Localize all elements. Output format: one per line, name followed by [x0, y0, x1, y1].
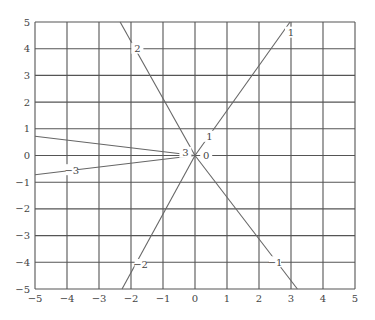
isocline-label: 0 [203, 150, 209, 161]
y-tick-label: −2 [15, 203, 30, 214]
x-tick-label: −4 [60, 293, 75, 304]
isocline-label: 2 [134, 43, 140, 54]
y-tick-label: 0 [24, 150, 30, 161]
isocline-label: 1 [206, 131, 212, 142]
x-tick-label: 1 [224, 293, 230, 304]
isocline-label: −3 [64, 165, 79, 176]
isocline-label: 3 [182, 147, 188, 158]
y-tick-label: 2 [24, 97, 30, 108]
isocline--3 [35, 156, 195, 175]
x-tick-label: −5 [28, 293, 43, 304]
y-tick-label: −5 [15, 284, 30, 295]
x-tick-label: 4 [320, 293, 326, 304]
x-tick-label: 5 [352, 293, 358, 304]
y-tick-label: 5 [24, 17, 30, 28]
x-tick-label: 2 [256, 293, 262, 304]
y-tick-label: −3 [15, 230, 30, 241]
isocline-3 [35, 136, 195, 155]
x-tick-label: −3 [92, 293, 107, 304]
y-tick-label: −4 [15, 257, 30, 268]
y-tick-label: 1 [24, 123, 30, 134]
x-tick-label: 3 [288, 293, 294, 304]
x-tick-label: −1 [156, 293, 171, 304]
isocline--1 [195, 156, 297, 290]
isocline-chart: 112−1−23−30 −5−4−3−2−1012345−5−4−3−2−101… [0, 0, 375, 320]
y-tick-label: −1 [15, 177, 30, 188]
isocline-label: −1 [268, 257, 283, 268]
x-tick-label: −2 [124, 293, 139, 304]
isocline-label: −2 [133, 259, 148, 270]
y-tick-label: 4 [24, 43, 30, 54]
x-tick-label: 0 [192, 293, 198, 304]
y-tick-label: 3 [24, 70, 30, 81]
isocline-label: 1 [288, 27, 294, 38]
